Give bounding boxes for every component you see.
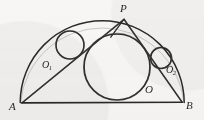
label-vertex-a: A <box>9 101 16 112</box>
segment-ab <box>22 102 183 103</box>
label-center-o1-subscript: 1 <box>49 64 52 71</box>
label-vertex-p: P <box>120 3 127 14</box>
label-center-o2: O2 <box>166 65 176 75</box>
geometry-canvas <box>0 0 204 120</box>
label-center-o2-subscript: 2 <box>173 69 176 76</box>
label-center-o: O <box>145 84 153 95</box>
geometry-figure: A B P O O1 O2 <box>0 0 204 120</box>
label-center-o1: O1 <box>42 60 52 70</box>
label-vertex-b: B <box>186 100 193 111</box>
